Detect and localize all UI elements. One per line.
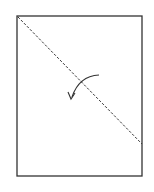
folding-diagram [0, 0, 154, 192]
diagram-svg [0, 0, 154, 192]
paper-sheet [17, 16, 142, 176]
